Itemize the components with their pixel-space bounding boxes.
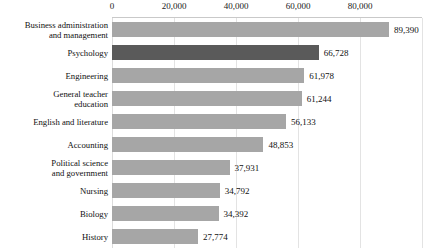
bar-row: Engineering61,978 bbox=[0, 64, 424, 87]
bar bbox=[112, 183, 220, 198]
category-label-line: English and literature bbox=[0, 116, 108, 126]
x-axis-tick-label: 40,000 bbox=[224, 1, 249, 12]
bar-value-label: 34,792 bbox=[220, 186, 250, 196]
bar-value-label: 61,978 bbox=[304, 71, 334, 81]
category-label-line: Business administration bbox=[0, 19, 108, 29]
bar bbox=[112, 206, 219, 221]
category-label-line: History bbox=[0, 231, 108, 241]
category-label: Engineering bbox=[0, 70, 108, 80]
category-label-line: Nursing bbox=[0, 185, 108, 195]
bar-row: Political scienceand government37,931 bbox=[0, 156, 424, 179]
bar-row: Business administrationand management89,… bbox=[0, 18, 424, 41]
bar-row: Psychology66,728 bbox=[0, 41, 424, 64]
bar bbox=[112, 22, 389, 37]
x-axis-tick-label: 60,000 bbox=[286, 1, 311, 12]
bar-row: History27,774 bbox=[0, 225, 424, 248]
category-label: Biology bbox=[0, 208, 108, 218]
category-label-line: General teacher bbox=[0, 88, 108, 98]
bar bbox=[112, 45, 319, 60]
category-label-line: Biology bbox=[0, 208, 108, 218]
category-label-line: Engineering bbox=[0, 70, 108, 80]
bar-row: Accounting48,853 bbox=[0, 133, 424, 156]
category-label: English and literature bbox=[0, 116, 108, 126]
category-label: Nursing bbox=[0, 185, 108, 195]
category-label: Accounting bbox=[0, 139, 108, 149]
x-axis-tick-label: 0 bbox=[110, 1, 115, 12]
bar-value-label: 89,390 bbox=[389, 25, 419, 35]
bar-value-label: 27,774 bbox=[198, 232, 228, 242]
bar-value-label: 37,931 bbox=[230, 163, 260, 173]
bar bbox=[112, 68, 304, 83]
category-label-line: and government bbox=[0, 168, 108, 178]
x-axis-tick-label: 80,000 bbox=[348, 1, 373, 12]
bar bbox=[112, 229, 198, 244]
category-label: History bbox=[0, 231, 108, 241]
bar-row: Biology34,392 bbox=[0, 202, 424, 225]
category-label-line: and management bbox=[0, 30, 108, 40]
x-axis-tick-label: 20,000 bbox=[162, 1, 187, 12]
x-axis-tick-labels: 020,00040,00060,00080,000 bbox=[0, 0, 424, 16]
category-label-line: Psychology bbox=[0, 47, 108, 57]
bar-row: Nursing34,792 bbox=[0, 179, 424, 202]
category-label-line: Accounting bbox=[0, 139, 108, 149]
bar-value-label: 56,133 bbox=[286, 117, 316, 127]
category-label: General teachereducation bbox=[0, 88, 108, 108]
bar-value-label: 66,728 bbox=[319, 48, 349, 58]
bar bbox=[112, 114, 286, 129]
bar-value-label: 34,392 bbox=[219, 209, 249, 219]
bar bbox=[112, 137, 263, 152]
category-label-line: Political science bbox=[0, 157, 108, 167]
bar-value-label: 61,244 bbox=[302, 94, 332, 104]
category-label: Psychology bbox=[0, 47, 108, 57]
horizontal-bar-chart: 020,00040,00060,00080,000 Business admin… bbox=[0, 0, 424, 248]
category-label: Business administrationand management bbox=[0, 19, 108, 39]
category-label-line: education bbox=[0, 99, 108, 109]
category-label: Political scienceand government bbox=[0, 157, 108, 177]
bar-value-label: 48,853 bbox=[263, 140, 293, 150]
bar-row: General teachereducation61,244 bbox=[0, 87, 424, 110]
bar-row: English and literature56,133 bbox=[0, 110, 424, 133]
bar bbox=[112, 160, 230, 175]
bar-rows: Business administrationand management89,… bbox=[0, 18, 424, 248]
bar bbox=[112, 91, 302, 106]
